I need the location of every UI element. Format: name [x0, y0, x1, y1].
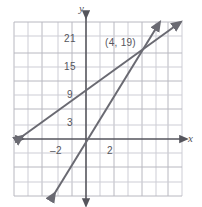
x-axis-label: x — [188, 133, 193, 144]
x-tick-label-2: 2 — [107, 146, 113, 156]
y-tick-label-9: 9 — [67, 90, 73, 100]
y-tick-label-15: 15 — [64, 62, 76, 72]
graph-figure: 21 15 9 3 –2 2 y x (4, 19) — [0, 0, 202, 207]
y-tick-label-3: 3 — [67, 118, 73, 128]
x-tick-label-negative-2: –2 — [50, 146, 62, 156]
y-tick-label-21: 21 — [64, 34, 76, 44]
intersection-point-label: (4, 19) — [105, 38, 136, 48]
coordinate-plane — [0, 0, 202, 207]
y-axis-label: y — [79, 3, 84, 14]
